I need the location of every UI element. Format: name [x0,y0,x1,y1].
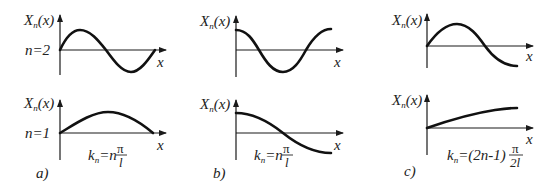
panel-caption-c: c) [404,163,416,180]
panel-caption-b: b) [213,165,226,182]
panel-caption-a: a) [36,165,49,182]
svg-text:π: π [283,141,290,156]
mode-curve [427,24,517,66]
x-axis-label: x [333,137,341,153]
panel-a: Xn(x) x n=2 Xn(x) x n=1 kn=n π l a) [23,12,166,182]
mode-label-n2: n=2 [25,42,51,58]
mode-curve [427,108,517,128]
panel-c-plot-top: Xn(x) x [391,12,533,68]
wavenumber-formula-b: kn=n π l [254,141,293,170]
x-axis-label: x [525,131,533,147]
y-axis-label: Xn(x) [199,96,230,114]
y-axis-label: Xn(x) [23,95,54,113]
panel-c: Xn(x) x Xn(x) x kn=(2n-1) π 2l c) [391,12,533,180]
x-axis-label: x [525,48,533,64]
mode-shapes-figure: Xn(x) x n=2 Xn(x) x n=1 kn=n π l a) Xn(x… [0,0,559,191]
svg-text:π: π [512,141,519,156]
svg-text:π: π [117,141,124,156]
wavenumber-formula-c: kn=(2n-1) π 2l [447,141,523,170]
y-axis-label: Xn(x) [391,12,422,30]
svg-text:kn=n: kn=n [254,147,283,165]
mode-curve [60,30,155,72]
mode-label-n1: n=1 [25,125,50,141]
y-axis-label: Xn(x) [391,92,422,110]
svg-text:kn=n: kn=n [88,147,117,165]
x-axis-label: x [156,137,164,153]
x-axis-label: x [333,54,341,70]
panel-a-plot-n2: Xn(x) x n=2 [23,12,166,75]
svg-text:l: l [119,155,123,170]
y-axis-label: Xn(x) [23,12,54,30]
svg-text:kn=(2n-1): kn=(2n-1) [447,147,506,165]
wavenumber-formula-a: kn=n π l [88,141,127,170]
svg-text:l: l [285,155,289,170]
panel-b-plot-top: Xn(x) x [199,13,343,77]
mode-curve [60,112,153,133]
x-axis-label: x [156,54,164,70]
y-axis-label: Xn(x) [199,13,230,31]
panel-b: Xn(x) x Xn(x) x kn=n π l b) [199,13,343,182]
svg-text:2l: 2l [510,155,521,170]
